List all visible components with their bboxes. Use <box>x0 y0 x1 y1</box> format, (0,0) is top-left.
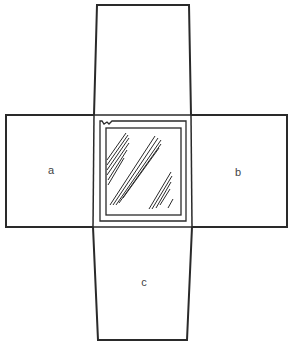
top-flap <box>94 5 191 115</box>
flap-label-c: c <box>141 276 147 288</box>
fold-line-right <box>191 115 192 227</box>
window-icon <box>100 121 186 221</box>
fold-line-left <box>93 115 94 227</box>
flap-label-a: a <box>48 164 54 176</box>
box-net-diagram <box>0 0 294 346</box>
flap-label-b: b <box>235 166 241 178</box>
